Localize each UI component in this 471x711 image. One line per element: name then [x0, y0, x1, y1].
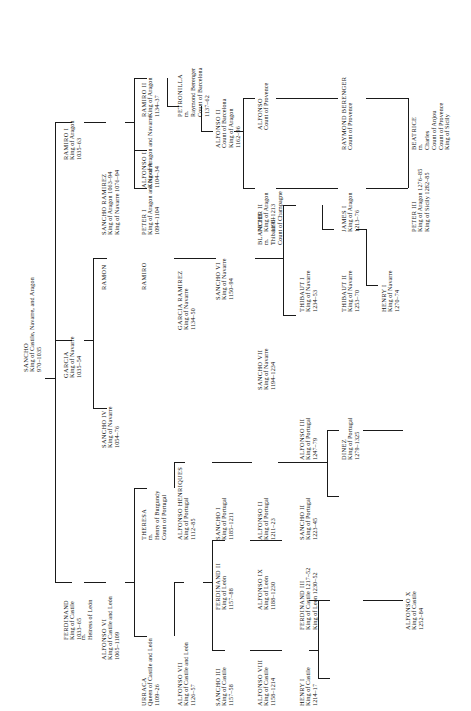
person-node-henry-i-navarre[interactable]: HENRY I King of Navarre 1270–74: [380, 197, 401, 312]
person-name: RAMIRO: [140, 200, 147, 290]
person-node-petronilla[interactable]: PETRONILLA m. Raymond Berenger Count of …: [176, 2, 210, 117]
person-node-beatrice[interactable]: BEATRICE m. Charles Count of Anjou Count…: [410, 15, 451, 150]
person-years: 1252–84: [418, 515, 425, 630]
person-title: King of Navarre: [69, 258, 76, 378]
person-name: ALFONSO VI: [100, 510, 107, 660]
connector: [243, 98, 244, 188]
person-name: RAYMOND BERENGER: [340, 5, 347, 150]
person-years: 1194–1234: [270, 270, 277, 390]
person-name: GARCIA RAMIREZ: [176, 200, 183, 330]
person-years: 1126–57: [190, 556, 197, 706]
connector: [366, 98, 408, 99]
connector: [201, 131, 213, 132]
spouse-name: Henry of Burgundy: [154, 420, 161, 540]
person-node-alfonso-viii-castile[interactable]: ALFONSO VIII King of Castile 1158–1214: [256, 586, 277, 706]
person-title: King of Navarre: [347, 197, 354, 312]
person-title: King of Aragon: [69, 40, 76, 160]
person-title: King of Castile and León: [183, 556, 190, 706]
person-node-sancho-iv-navarre[interactable]: SANCHO IV King of Navarre 1054–76: [100, 328, 121, 448]
person-node-garcia-navarre[interactable]: GARCIA King of Navarre 1035–54: [62, 258, 83, 378]
person-title-2: King of León 1230–52: [312, 510, 319, 630]
person-name: THERESA: [140, 420, 147, 540]
person-years: 1253–70: [354, 197, 361, 312]
person-name: URRACA: [140, 586, 147, 706]
person-node-denez[interactable]: DINEZ King of Portugal 1279–1325: [340, 340, 361, 460]
person-node-alfonso-ii-barcelona[interactable]: ALFONSO II Count of Barcelona King of Ar…: [214, 18, 242, 148]
connector: [174, 582, 175, 636]
connector: [322, 229, 334, 230]
person-name: FERDINAND III: [298, 510, 305, 630]
person-years: 1270–74: [394, 197, 401, 312]
person-name: SANCHO IV: [100, 328, 107, 448]
person-node-garcia-ramirez[interactable]: GARCIA RAMIREZ King of Navarre 1134–50: [176, 200, 197, 330]
person-name: HENRY I: [380, 197, 387, 312]
person-name: FERDINAND: [62, 510, 69, 640]
person-node-ramiro-ii[interactable]: RAMIRO II King of Aragon 1134–37: [140, 7, 161, 117]
person-node-ramiro-i-aragon[interactable]: RAMIRO I King of Aragon 1035–63: [62, 40, 83, 160]
person-node-alfonso-vii[interactable]: ALFONSO VII King of Castile and León 112…: [176, 556, 197, 706]
connector: [327, 496, 339, 497]
connector: [276, 188, 338, 189]
person-title-2: King of Navarre 1076–94: [114, 60, 121, 235]
person-node-alfonso-vi[interactable]: ALFONSO VI King of Castile and León 1065…: [100, 510, 121, 660]
connector: [327, 430, 328, 496]
person-title: King of Portugal: [347, 340, 354, 460]
person-title: King of Castile: [263, 586, 270, 706]
connector: [134, 78, 135, 188]
person-node-urraca[interactable]: URRACA Queen of Castile and León 1109–26: [140, 586, 161, 706]
person-node-theresa[interactable]: THERESA m. Henry of Burgundy Count of Po…: [140, 420, 168, 540]
connector: [255, 258, 283, 259]
person-name: THIBAUT I: [298, 197, 305, 312]
person-title: King of Navarre: [183, 200, 190, 330]
person-name: SANCHO III: [214, 591, 221, 706]
person-name: RAMIRO I: [62, 40, 69, 160]
person-node-alfonso-henriques[interactable]: ALFONSO HENRIQUES King of Portugal 1112–…: [176, 390, 197, 540]
person-title: King of Navarre: [263, 270, 270, 390]
connector: [45, 378, 56, 379]
person-title: Queen of Castile and León: [147, 586, 154, 706]
spouse-title: Count of Barcelona: [197, 2, 204, 117]
spouse-title-3: King of Sicily: [444, 15, 451, 150]
person-node-blanche[interactable]: BLANCHE m. Thibaut III Count of Champagn…: [256, 135, 284, 245]
person-years: 1137–62: [204, 2, 211, 117]
marriage-mark: m.: [417, 15, 424, 150]
connector: [203, 582, 213, 583]
person-years: 1134–50: [190, 200, 197, 330]
person-name: ALFONSO VII: [176, 556, 183, 706]
person-node-sancho-great[interactable]: SANCHO King of Castile, Navarre, and Ara…: [22, 117, 43, 372]
connector: [363, 430, 403, 431]
person-node-ferdinand-iii[interactable]: FERDINAND III King of Castile 1217–52 Ki…: [298, 510, 319, 630]
person-name: ALFONSO: [256, 30, 263, 130]
person-title: King of Castile, Navarre, and Aragon: [29, 117, 36, 372]
person-title: King of Portugal: [183, 390, 190, 540]
person-node-sancho-vii-navarre[interactable]: SANCHO VII King of Navarre 1194–1234: [256, 270, 277, 390]
person-node-sancho-iii-castile[interactable]: SANCHO III King of Castile 1157–58: [214, 591, 235, 706]
person-node-sancho-vi-navarre[interactable]: SANCHO VI King of Navarre 1150–94: [214, 180, 235, 300]
person-node-thibaut-ii-navarre[interactable]: THIBAUT II King of Navarre 1253–70: [340, 197, 361, 312]
person-name: BLANCHE: [256, 135, 263, 245]
person-node-alfonso-provence[interactable]: ALFONSO Count of Provence: [256, 30, 270, 130]
person-node-alfonso-iii-portugal[interactable]: ALFONSO III King of Portugal 1247–79: [298, 345, 319, 460]
person-title: King of Castile: [411, 515, 418, 630]
person-years: 1247–79: [312, 345, 319, 460]
person-node-alfonso-x[interactable]: ALFONSO X King of Castile 1252–84: [404, 515, 425, 630]
person-node-raymond-berenger[interactable]: RAYMOND BERENGER Count of Provence: [340, 5, 354, 150]
connector: [283, 205, 296, 206]
person-name: SANCHO: [22, 117, 29, 372]
spouse-title: Count of Portugal: [161, 420, 168, 540]
spouse-title: Count of Anjou: [431, 15, 438, 150]
connector: [243, 188, 255, 189]
spouse-name: Thibaut III: [270, 135, 277, 245]
person-title: King of Navarre: [387, 197, 394, 312]
person-years: 1035–63: [76, 40, 83, 160]
person-node-sancho-ramirez[interactable]: SANCHO RAMIREZ King of Aragon 1063–94 Ki…: [100, 60, 121, 235]
person-name: RAMIRO II: [140, 7, 147, 117]
person-node-ramiro[interactable]: RAMIRO: [140, 200, 147, 290]
connector: [283, 315, 296, 316]
person-title: King of Navarre: [305, 197, 312, 312]
marriage-mark: m.: [147, 420, 154, 540]
person-node-ferdinand-i-spouse[interactable]: m. Heiress of León: [80, 510, 94, 640]
person-node-thibaut-i-navarre[interactable]: THIBAUT I King of Navarre 1234–53: [298, 197, 319, 312]
connector: [167, 78, 168, 106]
connector: [318, 462, 328, 463]
